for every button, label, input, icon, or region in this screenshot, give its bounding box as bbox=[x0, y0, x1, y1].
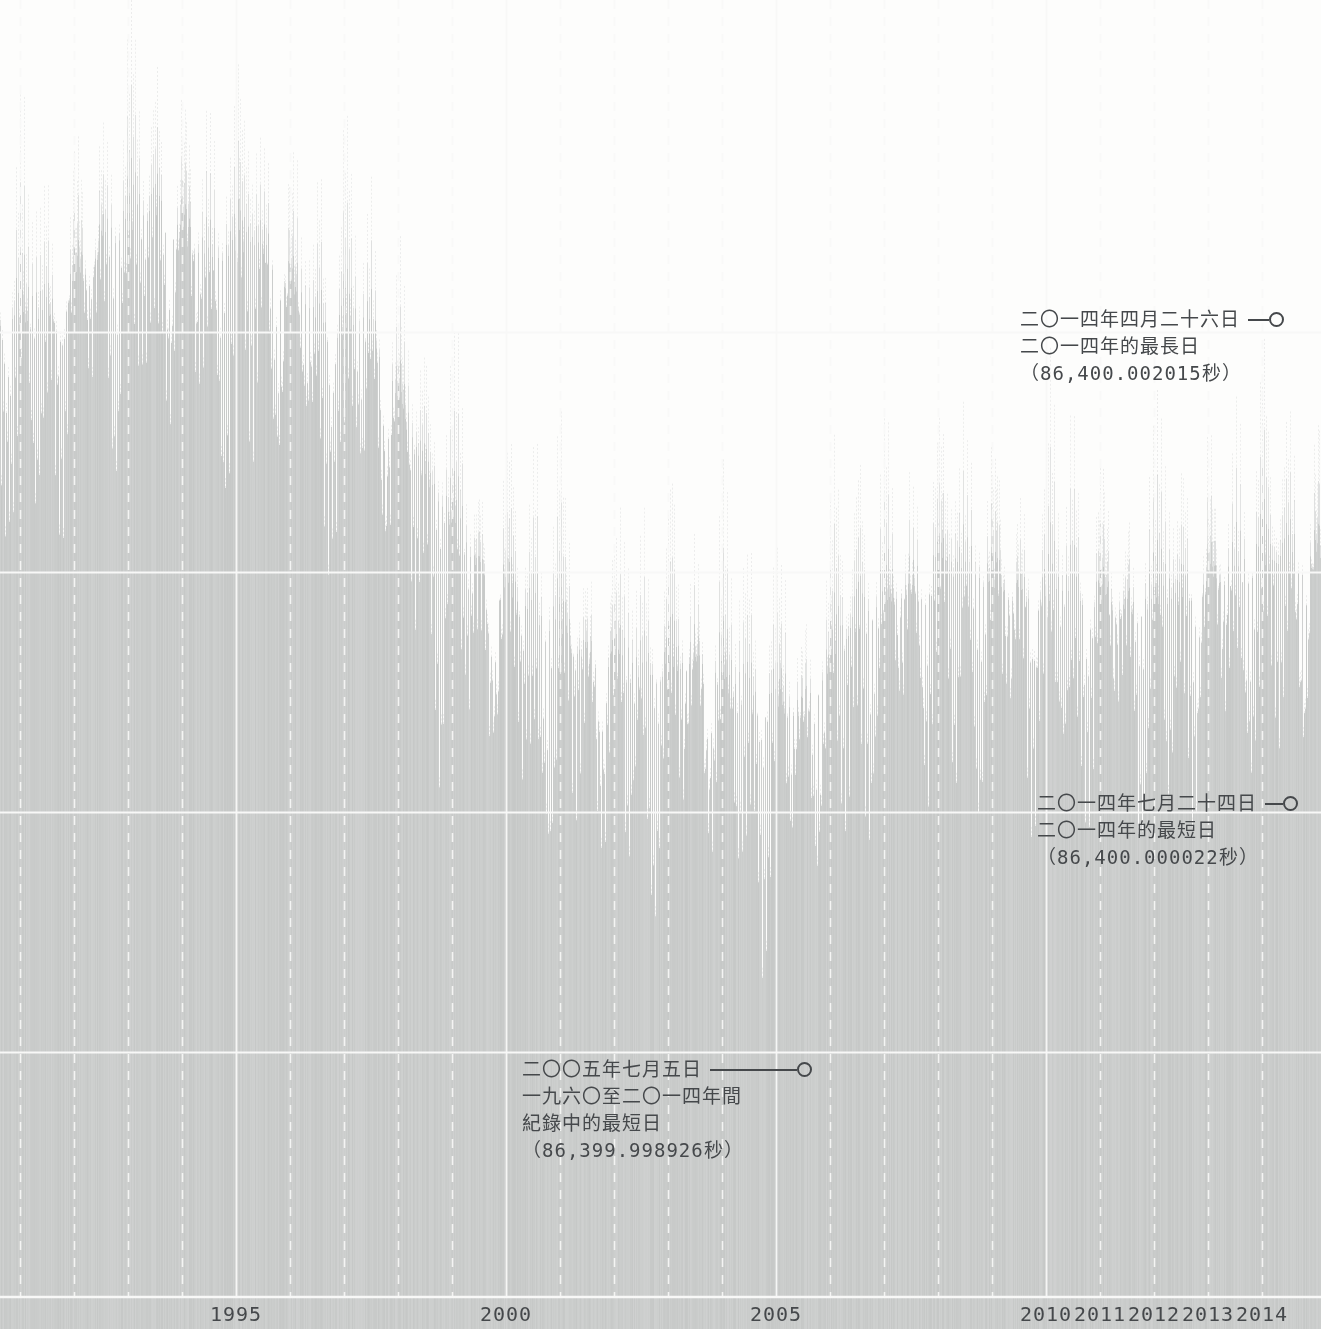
annotation-date-row: 二〇一四年七月二十四日 bbox=[1037, 790, 1298, 817]
leader-line bbox=[1248, 319, 1269, 321]
data-point-marker-circle bbox=[1283, 796, 1298, 811]
x-axis-label-2012: 2012 bbox=[1128, 1302, 1180, 1326]
annotation-record-shortest-day-2005: 二〇〇五年七月五日 一九六〇至二〇一四年間 紀錄中的最短日 （86,399.99… bbox=[522, 1056, 812, 1164]
annotation-date-label: 二〇一四年四月二十六日 bbox=[1020, 306, 1240, 333]
annotation-date-row: 二〇〇五年七月五日 bbox=[522, 1056, 812, 1083]
annotation-desc: 二〇一四年的最長日 bbox=[1020, 333, 1284, 360]
x-axis-label-2013: 2013 bbox=[1182, 1302, 1234, 1326]
annotation-date-label: 二〇〇五年七月五日 bbox=[522, 1056, 702, 1083]
day-length-chart-page: 二〇一四年四月二十六日 二〇一四年的最長日 （86,400.002015秒） 二… bbox=[0, 0, 1321, 1329]
annotation-longest-day-2014: 二〇一四年四月二十六日 二〇一四年的最長日 （86,400.002015秒） bbox=[1020, 306, 1284, 387]
annotation-value: （86,400.000022秒） bbox=[1037, 844, 1298, 871]
annotation-desc: 二〇一四年的最短日 bbox=[1037, 817, 1298, 844]
leader-line bbox=[710, 1069, 797, 1071]
x-axis-label-2000: 2000 bbox=[480, 1302, 532, 1326]
annotation-shortest-day-2014: 二〇一四年七月二十四日 二〇一四年的最短日 （86,400.000022秒） bbox=[1037, 790, 1298, 871]
data-point-marker-circle bbox=[797, 1062, 812, 1077]
x-axis-label-1995: 1995 bbox=[210, 1302, 262, 1326]
leader-line bbox=[1265, 803, 1283, 805]
annotation-date-label: 二〇一四年七月二十四日 bbox=[1037, 790, 1257, 817]
x-axis-label-2010: 2010 bbox=[1020, 1302, 1072, 1326]
x-axis-label-2011: 2011 bbox=[1074, 1302, 1126, 1326]
x-axis-label-2005: 2005 bbox=[750, 1302, 802, 1326]
x-axis-label-2014: 2014 bbox=[1236, 1302, 1288, 1326]
annotation-desc: 紀錄中的最短日 bbox=[522, 1110, 812, 1137]
annotation-value: （86,399.998926秒） bbox=[522, 1137, 812, 1164]
annotation-desc: 一九六〇至二〇一四年間 bbox=[522, 1083, 812, 1110]
annotation-date-row: 二〇一四年四月二十六日 bbox=[1020, 306, 1284, 333]
annotation-value: （86,400.002015秒） bbox=[1020, 360, 1284, 387]
data-point-marker-circle bbox=[1269, 312, 1284, 327]
